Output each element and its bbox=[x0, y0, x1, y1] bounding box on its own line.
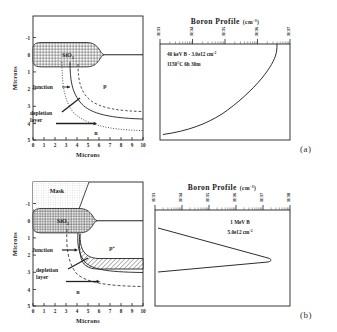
panel-a-profile-curve bbox=[163, 44, 277, 135]
panel-a-xtick: 4 bbox=[76, 142, 79, 148]
panel-a-xtick: 9 bbox=[131, 142, 134, 148]
figure-page: -1 0 1 2 3 4 5 Microns bbox=[0, 0, 337, 332]
panel-a-device-plot: -1 0 1 2 3 4 5 Microns bbox=[11, 16, 146, 158]
panel-b-svg: Mask -1 0 1 2 3 4 5 Microns bbox=[0, 166, 337, 332]
panel-b-xtick: 9 bbox=[131, 308, 134, 314]
panel-a-depletion-label-line1: depletion bbox=[30, 110, 53, 116]
panel-b-device-yaxis: -1 0 1 2 3 4 5 Microns bbox=[11, 201, 36, 309]
panel-a-depletion-label-line2: layer bbox=[30, 117, 43, 123]
panel-a-xtick: 7 bbox=[109, 142, 112, 148]
panel-b-xtick: 4 bbox=[76, 308, 79, 314]
panel-a-svg: -1 0 1 2 3 4 5 Microns bbox=[0, 0, 337, 166]
panel-b-xtick: 1 bbox=[43, 308, 46, 314]
panel-a: -1 0 1 2 3 4 5 Microns bbox=[0, 0, 337, 166]
panel-b-depletion-label-line2: layer bbox=[36, 274, 49, 280]
panel-a-profile-plot: Boron Profile(cm-3) bbox=[156, 17, 291, 140]
panel-a-junction-arrowhead bbox=[67, 85, 70, 88]
panel-a-profile-title: Boron Profile(cm-3) bbox=[191, 17, 259, 26]
panel-b: Mask -1 0 1 2 3 4 5 Microns bbox=[0, 166, 337, 332]
panel-b-ytick: 0 bbox=[27, 218, 30, 224]
panel-a-xtick: 8 bbox=[120, 142, 123, 148]
panel-b-region-pplus-label: p+ bbox=[109, 244, 115, 251]
panel-a-region-n-label: n bbox=[94, 130, 98, 136]
panel-a-junction-label: Junction bbox=[32, 84, 54, 90]
panel-a-xtick: 10 bbox=[140, 142, 146, 148]
panel-b-ytick: 5 bbox=[27, 303, 30, 309]
panel-a-caption: (a) bbox=[300, 144, 312, 154]
panel-a-ytick: 2 bbox=[27, 86, 30, 92]
panel-a-depletion-lower-curve bbox=[62, 62, 143, 131]
panel-b-profile-plot: Boron Profile(cm-3) bbox=[151, 183, 291, 306]
panel-b-ytick: -1 bbox=[26, 201, 31, 207]
panel-a-profile-xtick: 1E16 bbox=[254, 27, 259, 36]
panel-b-profile-curve bbox=[158, 228, 271, 272]
panel-b-xtick: 8 bbox=[120, 308, 123, 314]
panel-a-xtick: 1 bbox=[43, 142, 46, 148]
panel-a-ytick: -1 bbox=[26, 35, 31, 41]
panel-a-device-xlabel: Microns bbox=[76, 151, 100, 158]
panel-b-xtick: 7 bbox=[109, 308, 112, 314]
panel-b-device-xlabel: Microns bbox=[76, 317, 100, 324]
panel-b-profile-xtick: 1E14 bbox=[178, 192, 183, 202]
panel-a-xtick: 5 bbox=[87, 142, 90, 148]
panel-a-profile-xtick: 1E13 bbox=[156, 27, 161, 36]
panel-a-device-ylabel: Microns bbox=[11, 66, 18, 90]
panel-a-profile-annotation-2: 1150°C 6h 30m bbox=[167, 61, 201, 67]
panel-b-profile-xtick: 1E13 bbox=[151, 193, 156, 202]
panel-b-ytick: 2 bbox=[27, 252, 30, 258]
panel-b-profile-major-ticks bbox=[155, 205, 290, 210]
panel-a-profile-xtick: 1E14 bbox=[189, 26, 194, 36]
panel-a-xtick: 0 bbox=[32, 142, 35, 148]
panel-b-profile-xtick: 1E16 bbox=[232, 193, 237, 202]
panel-a-ytick: 0 bbox=[27, 52, 30, 58]
panel-a-depletion-leader-1 bbox=[62, 98, 80, 112]
panel-b-profile-xtick: 1E18 bbox=[286, 193, 291, 202]
panel-b-depletion-label-line1: depletion bbox=[36, 267, 59, 273]
panel-b-mask-label: Mask bbox=[50, 188, 65, 194]
panel-b-xtick: 3 bbox=[65, 308, 68, 314]
panel-b-xtick: 5 bbox=[87, 308, 90, 314]
panel-a-region-p-label: p bbox=[103, 83, 107, 89]
panel-a-depletion-upper-curve bbox=[78, 64, 143, 112]
panel-a-profile-annotation-1: 40 keV B - 3.0e12 cm-2 bbox=[167, 51, 217, 57]
panel-b-ytick: 4 bbox=[27, 287, 30, 293]
panel-b-xtick: 10 bbox=[140, 308, 146, 314]
panel-a-xtick: 6 bbox=[98, 142, 101, 148]
panel-b-xtick: 0 bbox=[32, 308, 35, 314]
panel-a-xtick: 2 bbox=[54, 142, 57, 148]
panel-b-profile-xtick: 1E15 bbox=[205, 193, 210, 202]
panel-a-junction-curve bbox=[70, 62, 143, 119]
panel-b-xtick: 2 bbox=[54, 308, 57, 314]
panel-b-ytick: 3 bbox=[27, 269, 30, 275]
panel-a-ytick: 5 bbox=[27, 137, 30, 143]
panel-b-junction-label: Junction bbox=[32, 247, 54, 253]
panel-a-profile-xtick: 1E15 bbox=[221, 27, 226, 36]
panel-b-xtick: 6 bbox=[98, 308, 101, 314]
panel-a-ytick: 3 bbox=[27, 103, 30, 109]
panel-b-device-ylabel: Microns bbox=[11, 232, 18, 256]
panel-b-caption: (b) bbox=[300, 310, 312, 320]
panel-b-ytick: 1 bbox=[27, 235, 30, 241]
panel-b-device-plot: Mask -1 0 1 2 3 4 5 Microns bbox=[11, 182, 146, 324]
panel-b-profile-xtick: 1E17 bbox=[259, 193, 264, 202]
panel-b-junction-arrowhead bbox=[75, 248, 78, 252]
panel-b-pplus-region bbox=[79, 234, 143, 269]
panel-b-profile-title: Boron Profile(cm-3) bbox=[188, 183, 256, 192]
panel-b-region-n-label: n bbox=[76, 289, 80, 295]
panel-a-xtick: 3 bbox=[65, 142, 68, 148]
panel-b-profile-annotation-1: 1 MeV B bbox=[230, 219, 250, 225]
panel-a-ytick: 1 bbox=[27, 69, 30, 75]
panel-a-profile-xtick: 1E17 bbox=[286, 27, 291, 36]
panel-b-profile-annotation-2: 5.0e12 cm-2 bbox=[228, 229, 253, 235]
